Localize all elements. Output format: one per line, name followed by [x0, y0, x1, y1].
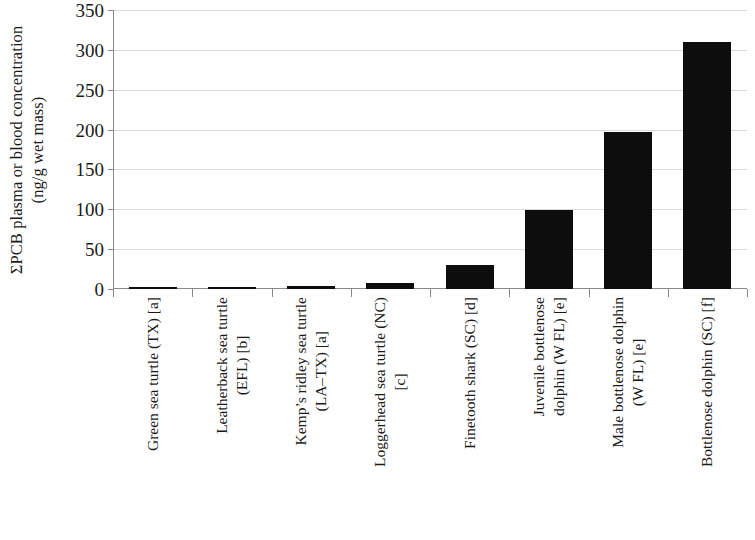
- x-category-label-5-line-1: dolphin (W FL) [e]: [549, 297, 569, 416]
- x-category-label-7-line-0: Bottlenose dolphin (SC) [f]: [697, 297, 717, 467]
- x-category-label-3-line-1: [c]: [390, 297, 410, 467]
- x-tick-mark-8: [747, 289, 748, 297]
- bar-4: [446, 265, 494, 289]
- y-tick-label-0: 0: [50, 280, 104, 299]
- pcb-concentration-bar-chart: ΣPCB plasma or blood concentration (ng/g…: [0, 0, 755, 540]
- x-category-label-1-line-0: Leatherback sea turtle: [212, 297, 232, 434]
- x-tick-mark-7: [668, 289, 669, 297]
- x-category-label-4-line-0: Finetooth shark (SC) [d]: [460, 297, 480, 449]
- x-category-label-2-line-1: (LA–TX) [a]: [311, 297, 331, 446]
- x-category-label-0: Green sea turtle (TX) [a]: [113, 297, 192, 540]
- y-tick-label-250: 250: [50, 80, 104, 99]
- x-tick-mark-0: [113, 289, 114, 297]
- x-category-label-0-line-0: Green sea turtle (TX) [a]: [143, 297, 163, 451]
- x-category-label-1-line-1: (EFL) [b]: [232, 297, 252, 434]
- x-category-label-2-line-0: Kemp’s ridley sea turtle: [291, 297, 311, 446]
- y-axis-title-line-1: ΣPCB plasma or blood concentration: [7, 26, 28, 275]
- x-category-label-5-line-0: Juvenile bottlenose: [529, 297, 549, 416]
- bar-6: [604, 132, 652, 289]
- y-tick-label-300: 300: [50, 40, 104, 59]
- x-category-label-1: Leatherback sea turtle(EFL) [b]: [192, 297, 271, 540]
- x-tick-mark-1: [192, 289, 193, 297]
- bar-5: [525, 210, 573, 289]
- x-tick-mark-5: [509, 289, 510, 297]
- plot-area: [113, 10, 747, 289]
- y-tick-label-200: 200: [50, 120, 104, 139]
- bar-series: [113, 10, 747, 289]
- y-tick-label-100: 100: [50, 200, 104, 219]
- x-category-label-6: Male bottlenose dolphin(W FL) [e]: [589, 297, 668, 540]
- x-tick-mark-3: [351, 289, 352, 297]
- y-axis-title-line-2: (ng/g wet mass): [28, 26, 49, 275]
- bar-2: [287, 286, 335, 289]
- bar-0: [129, 287, 177, 289]
- x-category-label-7: Bottlenose dolphin (SC) [f]: [668, 297, 747, 540]
- y-axis-title: ΣPCB plasma or blood concentration (ng/g…: [0, 0, 56, 300]
- x-category-label-5: Juvenile bottlenosedolphin (W FL) [e]: [509, 297, 588, 540]
- x-category-label-2: Kemp’s ridley sea turtle(LA–TX) [a]: [272, 297, 351, 540]
- x-category-label-3: Loggerhead sea turtle (NC)[c]: [351, 297, 430, 540]
- x-tick-mark-2: [272, 289, 273, 297]
- y-tick-label-150: 150: [50, 160, 104, 179]
- x-category-label-6-line-1: (W FL) [e]: [628, 297, 648, 448]
- y-tick-label-350: 350: [50, 1, 104, 20]
- bar-1: [208, 287, 256, 289]
- x-category-label-6-line-0: Male bottlenose dolphin: [608, 297, 628, 448]
- bar-7: [683, 42, 731, 289]
- bar-3: [366, 283, 414, 289]
- x-tick-mark-4: [430, 289, 431, 297]
- x-category-label-3-line-0: Loggerhead sea turtle (NC): [371, 297, 391, 467]
- x-tick-mark-6: [589, 289, 590, 297]
- x-axis-category-labels: Green sea turtle (TX) [a]Leatherback sea…: [113, 297, 747, 540]
- y-tick-label-50: 50: [50, 240, 104, 259]
- x-category-label-4: Finetooth shark (SC) [d]: [430, 297, 509, 540]
